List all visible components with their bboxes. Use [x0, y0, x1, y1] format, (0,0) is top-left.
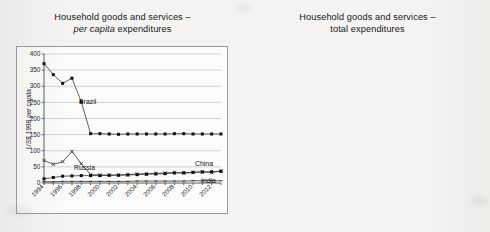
- svg-text:2012: 2012: [198, 182, 213, 197]
- svg-text:2000: 2000: [86, 182, 101, 197]
- chart-panel-per-capita: Household goods and services – per capit…: [0, 0, 245, 232]
- chart-title-line2-rest: expenditures: [115, 24, 171, 34]
- chart-title-total: Household goods and services – total exp…: [245, 12, 490, 35]
- series-label-russia: Russia: [74, 164, 95, 171]
- svg-text:350: 350: [30, 66, 41, 73]
- series-label-india: India: [201, 177, 216, 184]
- y-axis-label-per-capita: US$ 1998 per capita: [25, 89, 32, 149]
- svg-text:2004: 2004: [123, 182, 138, 197]
- chart-title-per-capita: Household goods and services – per capit…: [0, 12, 245, 35]
- chart-frame-per-capita: 0501001502002503003504001994199619982000…: [16, 46, 228, 214]
- svg-text:1996: 1996: [48, 182, 63, 197]
- chart-title-total-line2: total expenditures: [330, 24, 404, 34]
- svg-text:2010: 2010: [179, 182, 194, 197]
- series-label-brazil: Brazil: [79, 98, 96, 105]
- chart-title-line1: Household goods and services –: [54, 12, 190, 22]
- svg-text:1998: 1998: [67, 182, 82, 197]
- svg-text:2008: 2008: [160, 182, 175, 197]
- chart-canvas-per-capita: 0501001502002503003504001994199619982000…: [17, 47, 227, 213]
- figure-page: Household goods and services – per capit…: [0, 0, 490, 232]
- series-label-china: China: [195, 160, 213, 167]
- svg-text:2006: 2006: [142, 182, 157, 197]
- svg-text:2002: 2002: [104, 182, 119, 197]
- chart-title-line2-italic: per capita: [74, 24, 115, 34]
- chart-panel-total: Household goods and services – total exp…: [245, 0, 490, 232]
- svg-text:1994: 1994: [30, 182, 45, 197]
- svg-text:400: 400: [30, 50, 41, 57]
- chart-title-total-line1: Household goods and services –: [299, 12, 435, 22]
- svg-text:50: 50: [33, 163, 41, 170]
